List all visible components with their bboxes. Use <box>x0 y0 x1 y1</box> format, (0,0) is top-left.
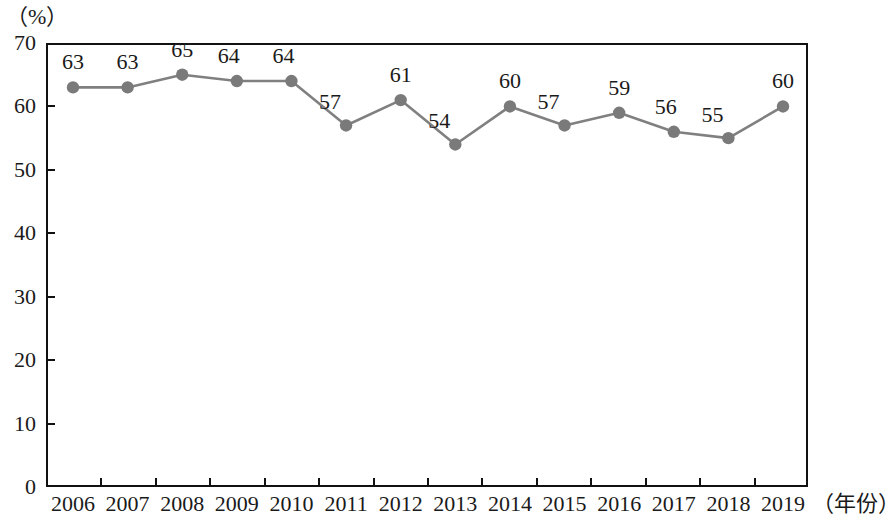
x-axis-unit-label: （年份） <box>812 492 890 516</box>
data-point-value-label: 60 <box>772 70 794 92</box>
y-axis-tick-labels: 010203040506070 <box>0 0 46 518</box>
x-axis-tick-mark <box>373 478 375 487</box>
x-axis-tick-label: 2008 <box>160 492 204 516</box>
x-axis-tick-label: 2009 <box>215 492 259 516</box>
y-axis-tick-label: 10 <box>14 413 36 435</box>
y-axis-tick-mark <box>46 232 55 234</box>
y-axis-tick-mark <box>46 359 55 361</box>
x-axis-tick-label: 2007 <box>106 492 150 516</box>
x-axis-tick-mark <box>264 478 266 487</box>
data-point-value-label: 56 <box>655 96 677 118</box>
data-point-value-label: 64 <box>218 45 240 67</box>
y-axis-tick-label: 70 <box>14 32 36 54</box>
data-point-value-label: 57 <box>319 91 341 113</box>
x-axis-tick-label: 2017 <box>652 492 696 516</box>
x-axis-tick-mark <box>699 478 701 487</box>
y-axis-tick-label: 0 <box>25 476 36 498</box>
plot-area-frame <box>46 43 808 487</box>
data-point-value-label: 64 <box>272 45 294 67</box>
x-axis-tick-label: 2006 <box>51 492 95 516</box>
y-axis-tick-mark <box>46 296 55 298</box>
x-axis-tick-label: 2016 <box>597 492 641 516</box>
x-axis-tick-mark <box>536 478 538 487</box>
x-axis-tick-mark <box>155 478 157 487</box>
y-axis-tick-label: 60 <box>14 95 36 117</box>
x-axis-tick-mark <box>427 478 429 487</box>
x-axis-tick-label: 2013 <box>433 492 477 516</box>
x-axis-tick-label: 2010 <box>269 492 313 516</box>
data-point-value-label: 63 <box>62 51 84 73</box>
y-axis-tick-mark <box>46 105 55 107</box>
x-axis-tick-mark <box>645 478 647 487</box>
y-axis-tick-label: 30 <box>14 286 36 308</box>
data-point-value-label: 60 <box>499 70 521 92</box>
x-axis-tick-label: 2011 <box>324 492 367 516</box>
y-axis-tick-mark <box>46 423 55 425</box>
x-axis-tick-label: 2018 <box>706 492 750 516</box>
y-axis-tick-label: 40 <box>14 222 36 244</box>
x-axis-tick-mark <box>590 478 592 487</box>
x-axis-tick-mark <box>100 478 102 487</box>
data-point-value-label: 65 <box>171 39 193 61</box>
y-axis-tick-mark <box>46 169 55 171</box>
data-point-value-label: 55 <box>701 104 723 126</box>
y-axis-tick-label: 50 <box>14 159 36 181</box>
x-axis-tick-mark <box>754 478 756 487</box>
x-axis-tick-mark <box>481 478 483 487</box>
x-axis-tick-label: 2014 <box>488 492 532 516</box>
data-point-value-label: 59 <box>608 77 630 99</box>
x-axis-tick-label: 2019 <box>761 492 805 516</box>
data-point-value-label: 54 <box>428 110 450 132</box>
data-point-value-label: 63 <box>117 51 139 73</box>
data-point-value-label: 61 <box>390 64 412 86</box>
x-axis-tick-mark <box>318 478 320 487</box>
y-axis-tick-label: 20 <box>14 349 36 371</box>
x-axis-tick-label: 2012 <box>379 492 423 516</box>
x-axis-tick-label: 2015 <box>543 492 587 516</box>
data-point-value-label: 57 <box>538 91 560 113</box>
x-axis-tick-mark <box>209 478 211 487</box>
